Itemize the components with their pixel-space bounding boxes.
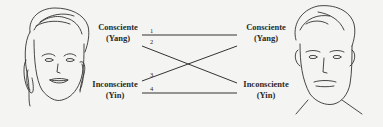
right-conscious-title: Consciente <box>238 22 294 33</box>
left-unconscious-label: Inconsciente (Yin) <box>86 79 144 101</box>
right-unconscious-sub: (Yin) <box>236 90 296 101</box>
left-unconscious-sub: (Yin) <box>86 90 144 101</box>
woman-face-icon <box>24 8 89 106</box>
line-number-4: 4 <box>150 85 153 92</box>
connection-lines <box>142 35 237 93</box>
line-number-1: 1 <box>150 27 153 34</box>
right-conscious-sub: (Yang) <box>238 33 294 44</box>
left-conscious-label: Consciente (Yang) <box>92 22 144 44</box>
line-number-2: 2 <box>150 38 153 45</box>
left-unconscious-title: Inconsciente <box>86 79 144 90</box>
line-number-3: 3 <box>150 71 153 78</box>
left-conscious-sub: (Yang) <box>92 33 144 44</box>
right-unconscious-label: Inconsciente (Yin) <box>236 79 296 101</box>
man-face-icon <box>295 6 362 114</box>
left-conscious-title: Consciente <box>92 22 144 33</box>
diagram-canvas <box>0 0 383 127</box>
right-unconscious-title: Inconsciente <box>236 79 296 90</box>
right-conscious-label: Consciente (Yang) <box>238 22 294 44</box>
